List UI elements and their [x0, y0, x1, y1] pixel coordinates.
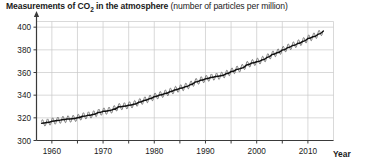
co2-seasonal-curve	[42, 30, 324, 126]
y-tick-label: 380	[17, 46, 31, 55]
x-axis-title: Year	[333, 149, 351, 159]
chart-container: Measurements of CO2 in the atmosphere (n…	[0, 0, 366, 165]
axes	[34, 11, 334, 141]
y-tick-label: 360	[17, 69, 31, 78]
y-axis-arrow-icon	[34, 11, 39, 17]
x-tick-label: 1960	[43, 147, 62, 156]
x-tick-label: 1970	[94, 147, 113, 156]
y-tick-label: 340	[17, 91, 31, 100]
y-tick-label: 300	[17, 137, 31, 146]
gridlines	[37, 22, 334, 141]
data-series-line	[42, 30, 324, 126]
y-tick-label: 320	[17, 114, 31, 123]
x-axis-tick-labels: 196019701980199020002010	[43, 147, 318, 156]
chart-plot: 300320340360380400 196019701980199020002…	[0, 0, 366, 165]
x-tick-label: 2000	[248, 147, 267, 156]
tick-marks	[34, 27, 308, 143]
co2-trend-line	[42, 31, 324, 123]
x-tick-label: 2010	[299, 147, 318, 156]
x-tick-label: 1980	[145, 147, 164, 156]
y-tick-label: 400	[17, 23, 31, 32]
x-tick-label: 1990	[196, 147, 215, 156]
y-axis-tick-labels: 300320340360380400	[17, 23, 31, 145]
